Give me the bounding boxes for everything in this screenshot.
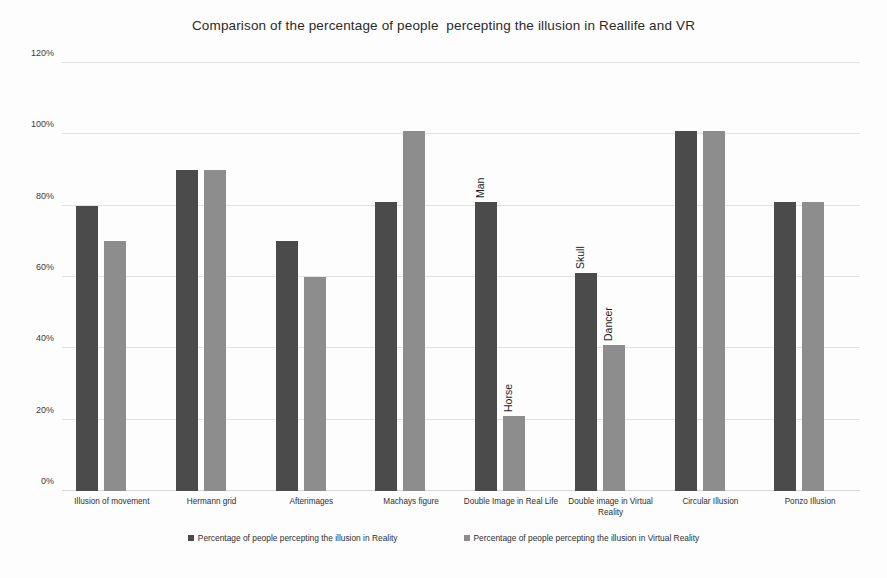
y-axis-tick-label: 40% xyxy=(10,333,54,343)
x-axis-labels: Illusion of movementHermann gridAfterima… xyxy=(62,496,860,530)
bar[interactable]: Dancer xyxy=(603,345,625,491)
x-axis-label: Ponzo Illusion xyxy=(760,496,860,507)
chart-legend: Percentage of people percepting the illu… xyxy=(0,533,887,543)
legend-item[interactable]: Percentage of people percepting the illu… xyxy=(188,533,398,543)
y-axis-tick-label: 20% xyxy=(10,405,54,415)
bar[interactable] xyxy=(204,170,226,491)
plot-area: 120%100%80%60%40%20%0% ManHorseSkullDanc… xyxy=(62,63,860,491)
bar[interactable] xyxy=(176,170,198,491)
bar-series-container: ManHorseSkullDancer xyxy=(62,63,860,491)
bar-group: ManHorse xyxy=(461,63,561,491)
x-axis-label: Afterimages xyxy=(262,496,362,507)
legend-label: Percentage of people percepting the illu… xyxy=(474,533,700,543)
bar-annotation: Dancer xyxy=(602,307,614,341)
bar[interactable] xyxy=(276,241,298,491)
bar[interactable] xyxy=(375,202,397,491)
legend-item[interactable]: Percentage of people percepting the illu… xyxy=(464,533,700,543)
y-axis-tick-label: 60% xyxy=(10,262,54,272)
bar[interactable] xyxy=(403,131,425,491)
x-axis-label: Double Image in Real Life xyxy=(461,496,561,507)
y-axis-tick-label: 0% xyxy=(10,476,54,486)
y-axis-tick-label: 120% xyxy=(10,48,54,58)
bar[interactable] xyxy=(304,277,326,491)
bar-annotation: Horse xyxy=(502,384,514,412)
bar[interactable] xyxy=(802,202,824,491)
bar-group xyxy=(62,63,162,491)
bar[interactable] xyxy=(675,131,697,491)
bar-annotation: Skull xyxy=(574,247,586,270)
legend-swatch-icon xyxy=(188,535,194,541)
legend-swatch-icon xyxy=(464,535,470,541)
bar-annotation: Man xyxy=(474,178,486,198)
x-axis-label: Double image in Virtual Reality xyxy=(561,496,661,518)
x-axis-label: Machays figure xyxy=(361,496,461,507)
bar-group xyxy=(760,63,860,491)
bar[interactable]: Horse xyxy=(503,416,525,491)
y-axis-tick-label: 80% xyxy=(10,191,54,201)
y-axis-tick-label: 100% xyxy=(10,119,54,129)
chart-title: Comparison of the percentage of people p… xyxy=(0,18,887,33)
legend-label: Percentage of people percepting the illu… xyxy=(198,533,398,543)
bar-group xyxy=(162,63,262,491)
x-axis-label: Circular Illusion xyxy=(661,496,761,507)
bar[interactable]: Man xyxy=(475,202,497,491)
x-axis-label: Illusion of movement xyxy=(62,496,162,507)
x-axis-label: Hermann grid xyxy=(162,496,262,507)
bar[interactable] xyxy=(703,131,725,491)
chart-page: Comparison of the percentage of people p… xyxy=(0,0,887,578)
bar-group xyxy=(661,63,761,491)
bar-group: SkullDancer xyxy=(561,63,661,491)
bar-group xyxy=(262,63,362,491)
bar[interactable] xyxy=(774,202,796,491)
bar[interactable] xyxy=(76,206,98,491)
bar[interactable] xyxy=(104,241,126,491)
bar[interactable]: Skull xyxy=(575,273,597,491)
bar-group xyxy=(361,63,461,491)
